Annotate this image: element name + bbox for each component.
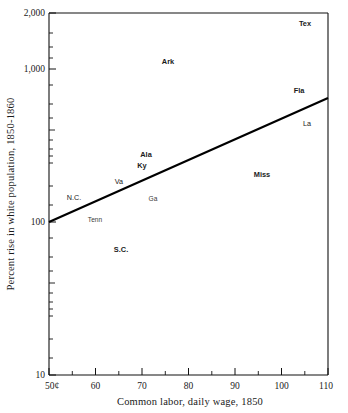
- data-point-label-nc: N.C.: [67, 193, 81, 202]
- x-tick-label: 110: [319, 381, 333, 391]
- trend-line: [49, 98, 328, 222]
- data-point-label-ala: Ala: [140, 150, 152, 159]
- x-tick-label: 100: [274, 381, 289, 391]
- plot-frame: [49, 13, 328, 375]
- y-axis-major-ticks: [49, 13, 56, 375]
- y-axis-tick-labels: 2,000 1,000 100 10: [24, 8, 46, 380]
- data-point-label-sc: S.C.: [114, 245, 128, 254]
- data-point-label-ark: Ark: [162, 57, 175, 66]
- y-axis-minor-ticks: [49, 33, 55, 358]
- x-tick-label: 60: [91, 381, 101, 391]
- chart-figure: 2,000 1,000 100 10 50¢ 60: [0, 0, 348, 413]
- scatter-plot-svg: 2,000 1,000 100 10 50¢ 60: [0, 0, 348, 413]
- data-point-label-miss: Miss: [254, 170, 270, 179]
- data-point-label-tex: Tex: [299, 19, 312, 28]
- y-tick-label: 10: [36, 370, 46, 380]
- x-tick-label: 50¢: [45, 381, 60, 391]
- x-tick-label: 90: [230, 381, 240, 391]
- data-point-label-ga: Ga: [149, 195, 158, 202]
- data-point-label-tenn: Tenn: [88, 216, 103, 223]
- y-tick-label: 100: [31, 217, 46, 227]
- data-point-labels: Tex Ark Fla La Ala Ky Miss Va N.C. Ga Te…: [67, 19, 312, 254]
- x-tick-label: 80: [184, 381, 194, 391]
- data-point-label-la: La: [303, 119, 311, 128]
- y-axis-title: Percent rise in white population, 1850-1…: [5, 98, 16, 291]
- data-point-label-fla: Fla: [294, 86, 306, 95]
- x-tick-label: 70: [137, 381, 147, 391]
- x-axis-major-ticks: [49, 368, 328, 375]
- data-point-label-ky: Ky: [137, 161, 147, 170]
- x-axis-title: Common labor, daily wage, 1850: [117, 396, 263, 407]
- x-axis-tick-labels: 50¢ 60 70 80 90 100 110: [45, 381, 333, 391]
- data-point-label-va: Va: [115, 177, 123, 186]
- y-tick-label: 1,000: [24, 64, 46, 74]
- y-tick-label: 2,000: [24, 8, 46, 18]
